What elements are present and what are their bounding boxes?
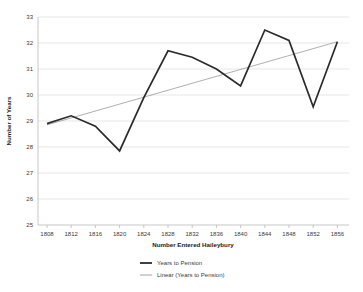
gridlines <box>38 17 349 199</box>
x-axis-title: Number Entered Haileybury <box>152 241 234 248</box>
data-series-line <box>47 30 337 151</box>
legend-label-trendline: Linear (Years to Pension) <box>157 272 225 278</box>
y-tick-label: 29 <box>26 118 33 124</box>
x-tick-label: 1856 <box>331 231 345 237</box>
y-tick-label: 25 <box>26 222 33 228</box>
line-chart: 33 32 31 30 29 28 27 26 25 1808 <box>0 0 363 292</box>
x-tick-marks <box>47 225 337 228</box>
x-tick-label: 1824 <box>137 231 151 237</box>
y-tick-label: 26 <box>26 196 33 202</box>
y-tick-labels: 33 32 31 30 29 28 27 26 25 <box>26 14 33 228</box>
x-tick-label: 1820 <box>113 231 127 237</box>
x-tick-label: 1832 <box>186 231 200 237</box>
x-tick-label: 1852 <box>307 231 321 237</box>
x-tick-label: 1816 <box>89 231 103 237</box>
y-tick-label: 28 <box>26 144 33 150</box>
y-tick-label: 27 <box>26 170 33 176</box>
y-tick-label: 33 <box>26 14 33 20</box>
x-tick-label: 1844 <box>258 231 272 237</box>
legend-label-series: Years to Pension <box>157 260 202 266</box>
x-tick-labels: 1808 1812 1816 1820 1824 1828 1832 1836 … <box>40 231 344 237</box>
x-tick-label: 1828 <box>161 231 175 237</box>
y-axis-title: Number of Years <box>5 96 12 146</box>
chart-container: 33 32 31 30 29 28 27 26 25 1808 <box>0 0 363 292</box>
y-tick-label: 30 <box>26 92 33 98</box>
x-tick-label: 1812 <box>65 231 79 237</box>
x-tick-label: 1848 <box>282 231 296 237</box>
x-tick-label: 1840 <box>234 231 248 237</box>
legend: Years to Pension Linear (Years to Pensio… <box>140 260 225 278</box>
x-tick-label: 1808 <box>40 231 54 237</box>
x-tick-label: 1836 <box>210 231 224 237</box>
y-tick-label: 32 <box>26 40 33 46</box>
y-tick-label: 31 <box>26 66 33 72</box>
